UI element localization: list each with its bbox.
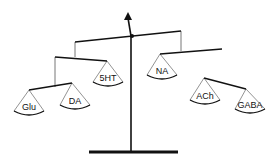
pan-label-gaba: GABA <box>237 100 262 110</box>
pivot-point <box>130 34 134 38</box>
pan-label-glu: Glu <box>22 102 36 112</box>
pan-label-na: NA <box>156 66 169 76</box>
arrow-up-icon <box>124 12 132 20</box>
arrow-shaft <box>128 18 131 36</box>
pan-label-5ht: 5HT <box>99 73 117 83</box>
balance-scale-svg: GluDA5HTNAAChGABA <box>0 0 277 164</box>
left-beam <box>55 57 107 61</box>
right-sub-beam <box>204 78 246 89</box>
pan-label-da: DA <box>69 96 82 106</box>
neurotransmitter-balance-diagram: GluDA5HTNAAChGABA <box>0 0 277 164</box>
pan-label-ach: ACh <box>196 91 214 101</box>
left-sub-beam <box>29 83 72 90</box>
right-beam <box>160 49 222 54</box>
main-beam <box>75 31 181 42</box>
